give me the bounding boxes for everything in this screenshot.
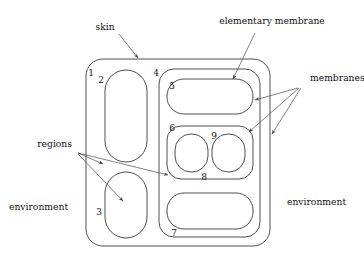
label-elementary-membrane: elementary membrane	[219, 15, 325, 26]
membrane-9	[212, 134, 245, 172]
skin-membrane-1	[86, 59, 270, 246]
label-membranes: membranes	[310, 72, 364, 83]
region-number-2: 2	[98, 75, 104, 85]
membrane-8	[175, 134, 208, 172]
label-skin: skin	[95, 21, 114, 32]
leader-membranes-a	[255, 88, 298, 100]
region-number-5: 5	[169, 81, 175, 91]
membrane-7	[167, 193, 253, 229]
leader-regions-c	[78, 154, 123, 201]
diagram-canvas: skin elementary membrane membranes regio…	[0, 0, 364, 270]
membrane-6	[167, 126, 253, 179]
leader-regions-b	[78, 153, 168, 175]
label-regions: regions	[37, 138, 72, 149]
leader-skin	[119, 34, 138, 58]
region-number-6: 6	[169, 123, 175, 133]
region-number-8: 8	[201, 172, 207, 182]
leader-membranes-c	[272, 88, 301, 134]
region-number-3: 3	[96, 207, 102, 217]
region-number-1: 1	[88, 68, 94, 78]
label-environment-right: environment	[287, 196, 346, 207]
region-number-4: 4	[153, 68, 159, 78]
membrane-3	[105, 172, 147, 238]
region-number-7: 7	[171, 228, 177, 238]
leader-elementary-membrane	[233, 33, 255, 79]
membrane-5	[167, 79, 253, 114]
membrane-2	[105, 70, 147, 162]
region-number-9: 9	[211, 131, 217, 141]
label-environment-left: environment	[9, 201, 68, 212]
membrane-structure-figure: skin elementary membrane membranes regio…	[0, 0, 364, 270]
